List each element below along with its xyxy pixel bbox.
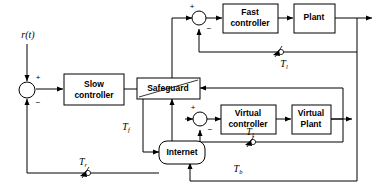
label-tr: Tr	[79, 156, 88, 168]
label-tf: Tf	[122, 121, 131, 133]
block-fast-controller-label-line2: controller	[230, 18, 270, 28]
label-tb-sub: b	[239, 168, 243, 175]
sum-main	[19, 82, 35, 98]
block-safeguard-label: Safeguard	[147, 83, 189, 93]
block-fast-controller-label-line1: Fast	[241, 7, 259, 17]
sum-main-minus: −	[36, 98, 41, 107]
label-tl-top-sub: l	[286, 63, 288, 70]
sum-virtual-minus: −	[208, 125, 213, 134]
sum-virtual	[193, 112, 207, 126]
sum-fast-plus: +	[190, 2, 195, 11]
block-diagram: + − + − + − Slow controller Safeguard In…	[0, 0, 380, 196]
label-tr-sub: r	[85, 161, 88, 168]
block-virtual-plant-label-line1: Virtual	[298, 108, 324, 118]
sum-main-plus: +	[36, 73, 41, 82]
wire-internet-to-main-sum-feedback	[27, 99, 159, 173]
block-slow-controller-label-line2: controller	[74, 90, 114, 100]
sum-fast	[192, 11, 206, 25]
block-slow-controller-label-line1: Slow	[84, 79, 104, 89]
sum-virtual-plus: +	[191, 103, 196, 112]
summing-junctions: + − + − + −	[19, 2, 213, 134]
block-virtual-plant-label-line2: Plant	[301, 119, 322, 129]
sum-fast-minus: −	[207, 24, 212, 33]
label-tb: Tb	[234, 163, 244, 175]
label-reference: r(t)	[21, 29, 35, 41]
block-internet-label: Internet	[166, 147, 197, 157]
wire-safeguard-to-fast-sum	[172, 18, 192, 78]
label-tf-sub: f	[128, 126, 131, 133]
signal-labels: r(t) Tf Tr Tb Tl Tl	[21, 29, 288, 175]
block-virtual-controller-label-line1: Virtual	[235, 108, 261, 118]
wire-tb-return-to-internet	[190, 163, 357, 181]
block-plant-label: Plant	[304, 12, 325, 22]
label-tl-top: Tl	[280, 58, 288, 70]
label-tl-bottom-sub: l	[252, 131, 254, 138]
